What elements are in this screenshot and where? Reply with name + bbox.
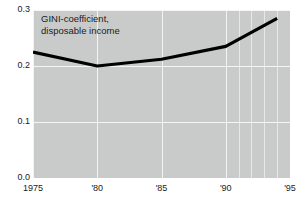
x-tick-label: '95 [284,183,296,193]
y-tick-label: 0.2 [3,60,30,70]
chart-title: GINI-coefficient, disposable income [41,13,120,36]
y-axis-ticks: 0.00.10.20.3 [0,0,30,208]
x-tick-label: '80 [91,183,103,193]
x-tick-label: '90 [220,183,232,193]
y-tick-label: 0.3 [3,4,30,14]
x-tick-label: '85 [156,183,168,193]
x-tick-label: 1975 [23,183,43,193]
y-tick-label: 0.0 [3,172,30,182]
y-tick-label: 0.1 [3,116,30,126]
chart-figure: GINI-coefficient, disposable income 0.00… [0,0,308,208]
